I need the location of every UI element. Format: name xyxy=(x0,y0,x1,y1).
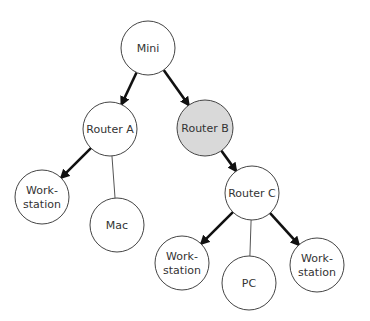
nodes-layer: MiniRouter ARouter BWork-stationMacRoute… xyxy=(15,21,344,310)
node-circle xyxy=(155,236,209,290)
node-label: Router C xyxy=(228,187,276,200)
node-router-b: Router B xyxy=(177,100,233,156)
edge-router-b-router-c xyxy=(221,151,236,171)
edge-router-a-mac xyxy=(112,156,115,198)
node-label: Work- xyxy=(166,250,198,263)
node-circle xyxy=(290,238,344,292)
node-mac: Mac xyxy=(90,198,144,252)
node-label: Mini xyxy=(137,42,160,55)
edge-mini-router-b xyxy=(164,70,189,105)
node-label: station xyxy=(23,198,61,211)
node-pc: PC xyxy=(222,256,276,310)
edge-router-c-pc xyxy=(250,220,251,256)
node-workstation-1: Work-station xyxy=(15,170,69,224)
node-label: station xyxy=(163,264,201,277)
node-circle xyxy=(15,170,69,224)
node-label: Router B xyxy=(181,122,229,135)
node-mini: Mini xyxy=(121,21,175,75)
edge-mini-router-a xyxy=(121,72,136,104)
edge-router-c-workstation-3 xyxy=(270,213,299,245)
edge-router-c-workstation-2 xyxy=(201,212,233,244)
node-label: station xyxy=(298,266,336,279)
node-workstation-2: Work-station xyxy=(155,236,209,290)
node-label: Work- xyxy=(301,252,333,265)
network-diagram: MiniRouter ARouter BWork-stationMacRoute… xyxy=(0,0,370,321)
node-workstation-3: Work-station xyxy=(290,238,344,292)
node-label: PC xyxy=(242,277,257,290)
node-router-c: Router C xyxy=(225,166,279,220)
edge-router-a-workstation-1 xyxy=(61,148,91,178)
node-label: Router A xyxy=(86,123,134,136)
node-label: Mac xyxy=(106,219,128,232)
node-router-a: Router A xyxy=(83,102,137,156)
node-label: Work- xyxy=(26,184,58,197)
